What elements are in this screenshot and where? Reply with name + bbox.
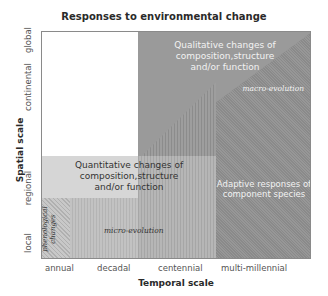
quantitative-line-3: and/or function [42, 182, 216, 193]
adaptive-line-2: component species [216, 189, 311, 199]
quantitative-label: Quantitative changes of composition,stru… [42, 160, 216, 193]
qualitative-line-1: Qualitative changes of [138, 40, 311, 51]
phenological-changes-label: phenological changes [42, 199, 57, 259]
qualitative-line-3: and/or function [138, 62, 311, 73]
micro-evolution-label: micro-evolution [104, 226, 164, 235]
adaptive-responses-label: Adaptive responses of component species [216, 179, 311, 200]
diagram-title: Responses to environmental change [0, 11, 328, 22]
macro-evolution-label: macro-evolution [242, 84, 304, 93]
x-tick-decadal: decadal [97, 263, 130, 273]
quantitative-line-2: composition,structure [42, 171, 216, 182]
y-tick-global: global [23, 0, 33, 80]
y-tick-regional: regional [23, 148, 33, 228]
x-tick-centennial: centennial [158, 263, 203, 273]
x-tick-multi-millennial: multi-millennial [221, 263, 287, 273]
x-tick-annual: annual [45, 263, 74, 273]
quantitative-line-1: Quantitative changes of [42, 160, 216, 171]
phenological-line-2: changes [50, 199, 58, 259]
adaptive-line-1: Adaptive responses of [216, 179, 311, 189]
qualitative-label: Qualitative changes of composition,struc… [138, 40, 311, 73]
plot-area: Qualitative changes of composition,struc… [41, 31, 311, 259]
qualitative-line-2: composition,structure [138, 51, 311, 62]
x-axis-label: Temporal scale [41, 278, 311, 288]
